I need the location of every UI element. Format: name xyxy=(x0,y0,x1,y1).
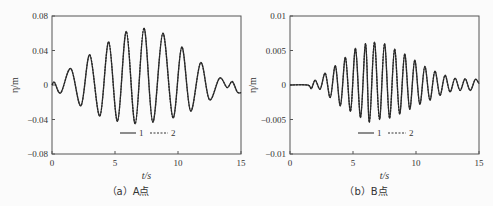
legend-label-1: 1 xyxy=(139,128,144,138)
series-line-2 xyxy=(290,42,479,122)
caption: （b）B点 xyxy=(344,186,387,197)
x-tick-label: 0 xyxy=(288,158,293,168)
y-tick-label: 0 xyxy=(282,80,287,90)
x-axis-label: t/s xyxy=(142,170,152,181)
y-tick-label: 0.01 xyxy=(270,11,286,21)
y-tick-label: 0.04 xyxy=(32,46,48,56)
x-axis-label: t/s xyxy=(380,170,390,181)
series-line-1 xyxy=(290,42,479,122)
series-line-1 xyxy=(52,28,241,124)
caption: （a）A点 xyxy=(107,186,150,197)
plot-frame xyxy=(52,16,241,154)
x-tick-label: 5 xyxy=(113,158,118,168)
y-tick-label: 0 xyxy=(44,80,49,90)
y-tick-label: −0.08 xyxy=(27,149,48,159)
x-tick-label: 5 xyxy=(351,158,356,168)
chart-a: 0510150.080.040−0.04−0.08t/sη/m（a）A点12 xyxy=(9,11,246,197)
y-axis-label: η/m xyxy=(9,77,20,93)
y-tick-label: −0.005 xyxy=(261,115,287,125)
legend-label-2: 2 xyxy=(171,128,176,138)
legend-label-1: 1 xyxy=(377,128,382,138)
x-tick-label: 15 xyxy=(237,158,247,168)
x-tick-label: 10 xyxy=(412,158,422,168)
x-tick-label: 10 xyxy=(174,158,184,168)
y-tick-label: −0.01 xyxy=(265,149,286,159)
legend-label-2: 2 xyxy=(409,128,414,138)
x-tick-label: 0 xyxy=(50,158,55,168)
y-tick-label: 0.005 xyxy=(266,46,287,56)
chart-b: 0510150.010.0050−0.005−0.01t/sη/m（b）B点12 xyxy=(247,11,484,197)
y-tick-label: 0.08 xyxy=(32,11,48,21)
y-axis-label: η/m xyxy=(247,77,258,93)
figure: 0510150.080.040−0.04−0.08t/sη/m（a）A点1205… xyxy=(0,0,493,206)
x-tick-label: 15 xyxy=(475,158,485,168)
y-tick-label: −0.04 xyxy=(27,115,48,125)
